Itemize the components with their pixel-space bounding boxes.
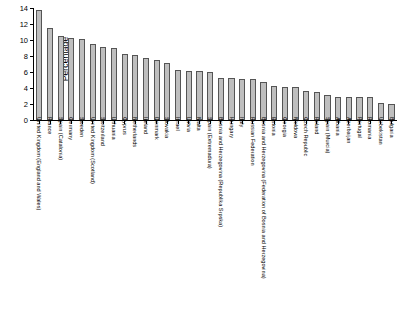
- bar: [132, 55, 138, 120]
- bar-slot: [333, 8, 344, 120]
- x-axis-label: Switzerland: [100, 117, 106, 146]
- x-axis-labels: United Kingdom (England and Wales)France…: [34, 117, 397, 307]
- bar-slot: [34, 8, 45, 120]
- y-axis-tick: [30, 40, 33, 41]
- y-axis-tick-label: 8: [24, 52, 28, 61]
- x-axis-label: Netherlands: [132, 117, 138, 147]
- x-axis-label: Estonia: [271, 117, 277, 136]
- bar-slot: [205, 8, 216, 120]
- x-axis-label: Spain (Murcia): [325, 117, 331, 153]
- bar: [271, 86, 277, 120]
- bar: [164, 63, 170, 120]
- x-axis-label: Malta: [196, 117, 202, 131]
- y-axis-tick-label: 10: [20, 36, 28, 45]
- bar: [186, 71, 192, 120]
- bar: [250, 79, 256, 120]
- bar-slot: [77, 8, 88, 120]
- bar-slot: [354, 8, 365, 120]
- bar-slot: [258, 8, 269, 120]
- bar: [228, 78, 234, 120]
- y-axis-tick-label: 6: [24, 68, 28, 77]
- bar: [218, 78, 224, 120]
- bar-slot: [386, 8, 397, 120]
- plot-area: 02468101214: [33, 8, 397, 120]
- bar-series: [34, 8, 397, 120]
- bar-slot: [109, 8, 120, 120]
- x-axis-label: Bulgaria: [389, 117, 395, 138]
- bar: [154, 60, 160, 120]
- bar: [314, 92, 320, 120]
- x-axis-label: Lithuania: [111, 117, 117, 140]
- y-axis-tick-label: 2: [24, 100, 28, 109]
- bar-slot: [365, 8, 376, 120]
- bar: [100, 47, 106, 120]
- x-axis-label: Spain (Catalonia): [58, 117, 64, 160]
- x-axis-label: Russian Federation: [250, 117, 256, 166]
- bar: [260, 82, 266, 120]
- x-axis-label: Italy: [239, 117, 245, 127]
- y-axis-tick-label: 14: [20, 4, 28, 13]
- y-axis-tick: [30, 72, 33, 73]
- y-axis-tick: [30, 104, 33, 105]
- bar: [79, 39, 85, 120]
- y-axis-tick: [30, 56, 33, 57]
- y-axis-tick-label: 4: [24, 84, 28, 93]
- y-axis-tick: [30, 24, 33, 25]
- bar: [207, 72, 213, 120]
- x-axis-label: Bosnia and Herzegovina (Federation of Bo…: [261, 117, 267, 279]
- y-axis-tick: [30, 8, 33, 9]
- bar-slot: [301, 8, 312, 120]
- x-axis-label: Spain (Extremadura): [207, 117, 213, 169]
- y-axis-tick: [30, 120, 33, 121]
- bar: [303, 91, 309, 120]
- bar-slot: [322, 8, 333, 120]
- bar-slot: [290, 8, 301, 120]
- bar-slot: [45, 8, 56, 120]
- bar-slot: [279, 8, 290, 120]
- bar-slot: [247, 8, 258, 120]
- x-axis-label: Hungary: [229, 117, 235, 138]
- bar: [90, 44, 96, 120]
- y-axis-tick-label: 0: [24, 116, 28, 125]
- bar-chart: Percentage 02468101214 United Kingdom (E…: [0, 0, 410, 315]
- bar-slot: [130, 8, 141, 120]
- bar: [47, 28, 53, 120]
- x-axis-label: Ireland: [143, 117, 149, 134]
- bar-slot: [311, 8, 322, 120]
- bar-slot: [98, 8, 109, 120]
- x-axis-label: United Kingdom (England and Wales): [36, 117, 42, 210]
- x-axis-label: Germany: [68, 117, 74, 140]
- x-axis-label: Poland: [314, 117, 320, 134]
- x-axis-label: Uzbekistan: [378, 117, 384, 145]
- bar-slot: [66, 8, 77, 120]
- bar: [292, 87, 298, 120]
- x-axis-label: Cyprus: [122, 117, 128, 135]
- x-axis-label: France: [47, 117, 53, 134]
- x-axis-label: Portugal: [357, 117, 363, 138]
- bar-slot: [194, 8, 205, 120]
- bar-slot: [141, 8, 152, 120]
- x-axis-label: Slovakia: [164, 117, 170, 138]
- bar: [58, 36, 64, 120]
- bar-slot: [269, 8, 280, 120]
- bar-slot: [119, 8, 130, 120]
- bar: [68, 38, 74, 120]
- bar-slot: [87, 8, 98, 120]
- bar: [143, 58, 149, 120]
- bar: [282, 87, 288, 120]
- x-axis-label: Latvia: [186, 117, 192, 132]
- bar-slot: [226, 8, 237, 120]
- bar-slot: [183, 8, 194, 120]
- bar-slot: [173, 8, 184, 120]
- bar: [196, 71, 202, 120]
- x-axis-label: Denmark: [154, 117, 160, 140]
- bar-slot: [343, 8, 354, 120]
- y-axis-tick-label: 12: [20, 20, 28, 29]
- x-axis-label: Albania: [335, 117, 341, 136]
- x-axis-label: Romania: [367, 117, 373, 139]
- bar: [36, 10, 42, 120]
- x-axis-label: Sweden: [79, 117, 85, 137]
- y-axis-tick: [30, 88, 33, 89]
- x-axis-label: United Kingdom (Scotland): [90, 117, 96, 184]
- bar: [122, 54, 128, 120]
